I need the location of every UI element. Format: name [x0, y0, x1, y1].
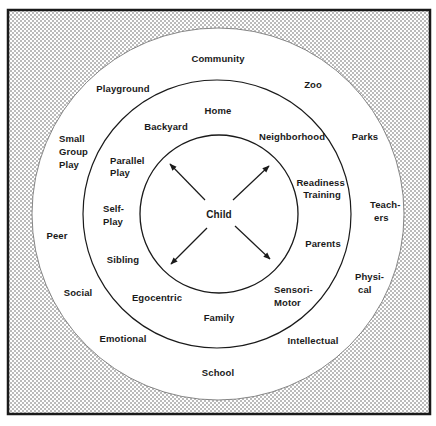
label-egocentric: Egocentric — [132, 292, 182, 303]
label-backyard: Backyard — [144, 121, 188, 132]
label-sibling: Sibling — [107, 254, 139, 265]
child-environment-diagram: Child Home Backyard Neighborhood Paralle… — [0, 0, 436, 426]
label-family: Family — [204, 312, 235, 323]
label-school: School — [202, 367, 234, 378]
label-home: Home — [205, 105, 232, 116]
label-parents: Parents — [305, 238, 341, 249]
label-zoo: Zoo — [304, 79, 322, 90]
label-parks: Parks — [352, 131, 378, 142]
label-social: Social — [64, 287, 93, 298]
label-readiness-training: Readiness Training — [296, 177, 347, 200]
label-peer: Peer — [46, 230, 67, 241]
label-neighborhood: Neighborhood — [259, 131, 325, 142]
label-community: Community — [191, 53, 245, 64]
label-emotional: Emotional — [100, 333, 147, 344]
center-label-child: Child — [206, 209, 232, 220]
label-playground: Playground — [96, 83, 149, 94]
label-intellectual: Intellectual — [288, 335, 339, 346]
